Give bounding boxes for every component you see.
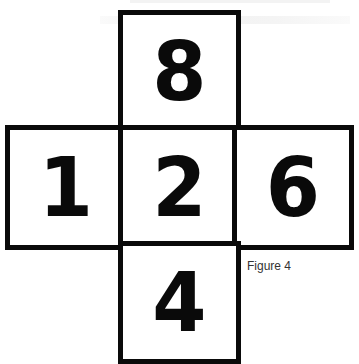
cell-right-number: 6 bbox=[266, 147, 320, 229]
cell-right: 6 bbox=[232, 125, 354, 250]
cell-center: 2 bbox=[118, 125, 241, 250]
cell-top-number: 8 bbox=[152, 31, 206, 113]
cell-top: 8 bbox=[118, 10, 241, 133]
cell-bottom: 4 bbox=[118, 241, 241, 364]
cell-center-number: 2 bbox=[152, 147, 206, 229]
cell-left-number: 1 bbox=[39, 147, 93, 229]
cell-bottom-number: 4 bbox=[152, 262, 206, 344]
cell-left: 1 bbox=[5, 125, 127, 250]
bleed-line bbox=[130, 0, 330, 3]
figure-caption: Figure 4 bbox=[247, 259, 291, 273]
